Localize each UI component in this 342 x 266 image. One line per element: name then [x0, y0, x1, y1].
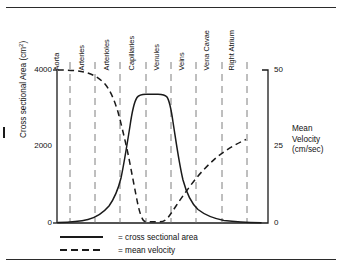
figure-container: Aorta Arteries Arterioles Capillaries Ve…	[0, 0, 342, 266]
gridlines-group	[70, 62, 247, 223]
right-axis-bracket	[262, 70, 268, 223]
series-line-cross-sectional-area	[58, 94, 261, 223]
series-line-mean-velocity	[58, 70, 246, 222]
plot-area	[0, 0, 342, 266]
